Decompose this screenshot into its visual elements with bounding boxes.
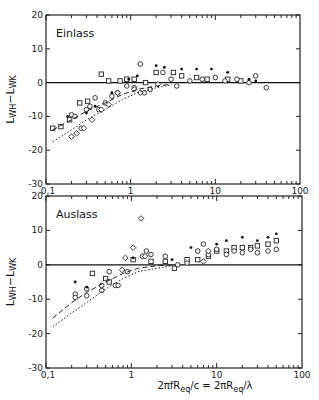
square-marker: [205, 77, 209, 81]
star-marker: [256, 239, 259, 242]
diamond-marker: [119, 267, 125, 273]
circle-marker: [124, 84, 129, 89]
star-marker: [195, 68, 198, 71]
star-marker: [248, 78, 251, 81]
circle-marker: [224, 252, 229, 257]
square-marker: [274, 239, 278, 243]
circle-marker: [138, 62, 143, 67]
panel-title: Einlass: [56, 27, 95, 40]
square-marker: [171, 70, 175, 74]
curve-dashed-line: [53, 265, 172, 318]
square-marker: [85, 99, 89, 103]
panel-title: Auslass: [56, 208, 98, 221]
circle-marker: [73, 295, 78, 300]
y-tick-label: 10: [32, 225, 44, 235]
circle-marker: [232, 249, 237, 254]
circle-marker: [248, 247, 253, 252]
x-tick-label: 1: [128, 370, 134, 380]
diamond-marker: [138, 216, 144, 222]
circle-marker: [88, 104, 93, 109]
square-marker: [77, 101, 81, 105]
diamond-marker: [115, 90, 121, 96]
circle-marker: [185, 261, 190, 266]
plot-frame: [46, 196, 302, 368]
circle-marker: [174, 84, 179, 89]
star-marker: [136, 74, 139, 77]
circle-marker: [253, 74, 258, 79]
star-marker: [74, 281, 77, 284]
diamond-marker: [130, 245, 136, 251]
y-tick-label: -10: [28, 294, 43, 304]
star-marker: [171, 258, 174, 261]
star-marker: [215, 243, 218, 246]
x-tick-label: 100: [293, 370, 310, 380]
star-marker: [254, 80, 257, 83]
square-marker: [99, 72, 103, 76]
circle-marker: [213, 75, 218, 80]
star-marker: [241, 236, 244, 239]
circle-marker: [93, 96, 98, 101]
square-marker: [143, 80, 147, 84]
circle-marker: [116, 283, 121, 288]
circle-marker: [223, 79, 228, 84]
y-axis-label: LWH−LWK: [4, 257, 18, 306]
panel-auslass: 20100-10-20-300,1110100AuslassLWH−LWK: [4, 191, 311, 380]
x-tick-label: 0,1: [41, 370, 55, 380]
y-tick-label: -20: [28, 145, 43, 155]
square-marker: [149, 259, 153, 263]
square-marker: [90, 271, 94, 275]
circle-marker: [188, 79, 193, 84]
circle-marker: [84, 293, 89, 298]
circle-marker: [240, 250, 245, 255]
star-marker: [225, 239, 228, 242]
square-marker: [194, 75, 198, 79]
star-marker: [155, 64, 158, 67]
x-tick-label: 100: [291, 186, 308, 196]
square-marker: [132, 77, 136, 81]
star-marker: [210, 68, 213, 71]
curve-dotted-line: [53, 266, 172, 327]
y-axis-label: LWH−LWK: [4, 74, 18, 123]
star-marker: [85, 112, 88, 115]
circle-marker: [200, 77, 205, 82]
plot-frame: [46, 15, 300, 184]
star-marker: [180, 68, 183, 71]
circle-marker: [110, 94, 115, 99]
circle-marker: [144, 249, 149, 254]
square-marker: [240, 245, 244, 249]
square-marker: [255, 244, 259, 248]
series-diamonds: [119, 216, 211, 273]
circle-marker: [175, 263, 180, 268]
y-tick-label: 0: [37, 260, 43, 270]
series-curve-dotted: [53, 266, 172, 327]
star-marker: [85, 286, 88, 289]
panel-einlass: 20100-10-20-300,1110100EinlassLWH−LWK: [4, 10, 309, 196]
y-tick-label: 0: [37, 78, 43, 88]
circle-marker: [264, 85, 269, 90]
circle-marker: [274, 247, 279, 252]
series-diamonds: [69, 81, 161, 139]
x-tick-label: 10: [210, 186, 222, 196]
diamond-marker: [89, 117, 95, 123]
diamond-marker: [69, 134, 75, 140]
series-curve-dashed: [53, 265, 172, 318]
circle-marker: [214, 247, 219, 252]
circle-marker: [149, 252, 154, 257]
y-tick-label: 20: [32, 10, 44, 20]
circle-marker: [107, 269, 112, 274]
x-tick-label: 1: [128, 186, 134, 196]
circle-marker: [247, 80, 252, 85]
diamond-marker: [201, 259, 207, 265]
circle-marker: [195, 249, 200, 254]
chart-figure: 20100-10-20-300,1110100EinlassLWH−LWK201…: [0, 0, 319, 400]
series-squares: [90, 239, 278, 285]
square-marker: [196, 257, 200, 261]
star-marker: [190, 246, 193, 249]
star-marker: [226, 71, 229, 74]
diamond-marker: [123, 255, 129, 261]
curve-dashed-line: [53, 84, 171, 130]
x-axis-label: 2πfReq/c = 2πReq/λ: [157, 380, 252, 394]
series-curve-dashed: [53, 84, 171, 130]
y-tick-label: -20: [28, 329, 43, 339]
star-marker: [110, 91, 113, 94]
